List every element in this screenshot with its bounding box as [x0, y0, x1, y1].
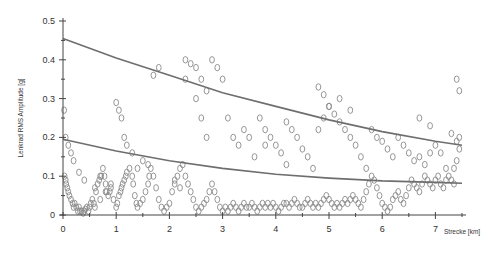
data-point: [295, 134, 300, 140]
data-point: [361, 196, 366, 202]
data-point: [327, 103, 332, 109]
data-point: [449, 130, 454, 136]
data-point: [273, 142, 278, 148]
data-point: [178, 185, 183, 191]
data-point: [454, 158, 459, 164]
data-point: [178, 165, 183, 171]
data-point: [210, 57, 215, 63]
data-point: [428, 150, 433, 156]
data-point: [316, 126, 321, 132]
data-point: [300, 146, 305, 152]
data-point: [380, 138, 385, 144]
data-point: [131, 181, 136, 187]
data-point: [146, 161, 151, 167]
data-point: [390, 196, 395, 202]
data-point: [118, 189, 123, 195]
data-point: [380, 200, 385, 206]
data-point: [340, 200, 345, 206]
data-point: [132, 192, 137, 198]
data-point: [247, 134, 252, 140]
data-point: [398, 196, 403, 202]
data-point: [393, 192, 398, 198]
data-point: [236, 142, 241, 148]
y-tick-label: 0.2: [42, 132, 55, 142]
data-point: [316, 84, 321, 90]
data-point: [66, 142, 71, 148]
data-point: [154, 185, 159, 191]
data-point: [124, 169, 129, 175]
data-point: [103, 181, 108, 187]
scatter-chart: 00.10.20.30.40.5 01234567 Lenkrad RMS Am…: [0, 0, 497, 253]
x-axis-title: Strecke [km]: [444, 228, 480, 236]
data-point: [263, 142, 268, 148]
data-point: [114, 99, 119, 105]
data-point: [353, 196, 358, 202]
data-point: [172, 177, 177, 183]
data-point: [199, 76, 204, 82]
data-point: [279, 150, 284, 156]
data-point: [124, 142, 129, 148]
data-point: [135, 165, 140, 171]
data-point: [194, 204, 199, 210]
data-point: [194, 95, 199, 101]
data-point: [188, 189, 193, 195]
data-point: [396, 189, 401, 195]
data-point: [401, 142, 406, 148]
data-point: [343, 126, 348, 132]
data-point: [212, 189, 217, 195]
data-point: [348, 107, 353, 113]
data-point: [140, 196, 145, 202]
x-tick-label: 5: [326, 224, 331, 234]
data-point: [390, 154, 395, 160]
data-point: [119, 115, 124, 121]
data-point: [77, 169, 82, 175]
x-tick-label: 4: [273, 224, 278, 234]
fit-lines: [63, 39, 462, 184]
data-point: [172, 181, 177, 187]
data-point: [436, 173, 441, 179]
data-point: [210, 181, 215, 187]
data-point: [69, 150, 74, 156]
data-point: [159, 204, 164, 210]
data-point: [242, 126, 247, 132]
data-point: [332, 111, 337, 117]
data-point: [109, 181, 114, 187]
data-point: [441, 185, 446, 191]
data-point: [143, 189, 148, 195]
y-tick-label: 0.5: [42, 16, 55, 26]
data-point: [438, 150, 443, 156]
data-point: [305, 154, 310, 160]
data-point: [218, 204, 223, 210]
data-point: [115, 200, 120, 206]
data-point: [186, 181, 191, 187]
data-point: [311, 165, 316, 171]
data-point: [348, 134, 353, 140]
x-tick-label: 1: [114, 224, 119, 234]
data-point: [417, 115, 422, 121]
data-point: [64, 181, 69, 187]
data-point: [98, 196, 103, 202]
data-point: [67, 192, 72, 198]
data-point: [119, 185, 124, 191]
y-axis-title: Lenkrad RMS Amplitude [g]: [17, 78, 25, 157]
x-tick-label: 3: [220, 224, 225, 234]
data-point: [287, 204, 292, 210]
data-point: [199, 115, 204, 121]
data-point: [151, 72, 156, 78]
y-axis-ticks: 00.10.20.30.40.5: [42, 16, 66, 220]
data-point: [231, 134, 236, 140]
data-point: [375, 134, 380, 140]
x-tick-label: 0: [60, 224, 65, 234]
data-point: [194, 64, 199, 70]
data-point: [66, 189, 71, 195]
data-point: [364, 189, 369, 195]
data-point: [367, 181, 372, 187]
data-point: [65, 185, 70, 191]
data-point: [284, 119, 289, 125]
data-point: [122, 134, 127, 140]
data-point: [127, 165, 132, 171]
data-point: [204, 134, 209, 140]
y-tick-label: 0.4: [42, 55, 55, 65]
data-point: [353, 142, 358, 148]
data-point: [183, 173, 188, 179]
